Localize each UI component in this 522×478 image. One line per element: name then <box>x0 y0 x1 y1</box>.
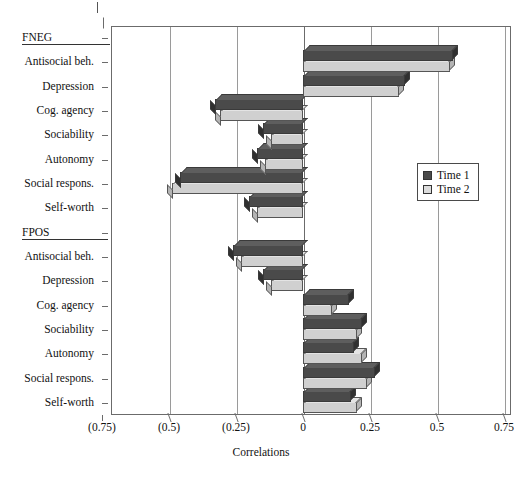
legend-label-time-2: Time 2 <box>437 183 470 195</box>
bar-top-face <box>234 240 308 246</box>
legend-swatch-time-2 <box>423 185 432 194</box>
bar-fpos-antisocial-beh-time-2 <box>241 256 303 267</box>
y-tick-7 <box>102 208 108 209</box>
y-label-antisocial-beh: Antisocial beh. <box>24 55 94 67</box>
y-tick-8 <box>102 233 108 234</box>
bar-fneg-autonomy-time-1 <box>257 148 303 159</box>
y-tick-3 <box>102 111 108 112</box>
bar-fneg-cog-agency-time-2 <box>220 110 303 121</box>
y-tick-10 <box>102 281 108 282</box>
y-label-self-worth: Self-worth <box>45 201 94 213</box>
bar-fpos-autonomy-time-1 <box>303 342 354 353</box>
bar-fneg-depression-time-2 <box>303 86 399 97</box>
y-label-self-worth: Self-worth <box>45 396 94 408</box>
y-tick-2 <box>102 87 108 88</box>
correlations-bar-chart: FNEGAntisocial beh.DepressionCog. agency… <box>0 0 522 478</box>
bar-fpos-sociability-time-1 <box>303 318 362 329</box>
bar-fpos-depression-time-2 <box>271 280 303 291</box>
bar-top-face <box>216 94 308 100</box>
bar-fneg-depression-time-1 <box>303 75 405 86</box>
legend-swatch-time-1 <box>423 171 432 180</box>
bar-top-face <box>304 289 354 295</box>
bar-fpos-autonomy-time-2 <box>303 353 362 364</box>
gridline-1 <box>170 27 171 414</box>
y-axis-labels: FNEGAntisocial beh.DepressionCog. agency… <box>0 26 108 415</box>
bar-fneg-sociability-time-2 <box>271 134 303 145</box>
y-tick-1 <box>102 62 108 63</box>
bar-fpos-cog-agency-time-1 <box>303 294 349 305</box>
y-tick-5 <box>102 160 108 161</box>
bar-fpos-social-respons-time-2 <box>303 378 367 389</box>
x-tick-label-4: 0.25 <box>340 421 400 433</box>
y-label-social-respons: Social respons. <box>24 372 94 384</box>
x-tick-label-5: 0.5 <box>407 421 467 433</box>
page-crop-mark <box>97 2 98 13</box>
gridline-6 <box>505 27 506 414</box>
bar-fpos-social-respons-time-1 <box>303 367 375 378</box>
gridline-2 <box>237 27 238 414</box>
bar-fneg-sociability-time-1 <box>263 123 303 134</box>
y-label-cog-agency: Cog. agency <box>37 104 94 116</box>
x-tick-label-0: (0.75) <box>72 421 132 433</box>
y-label-antisocial-beh: Antisocial beh. <box>24 250 94 262</box>
x-tick-label-1: (0.5) <box>139 421 199 433</box>
y-tick-11 <box>102 306 108 307</box>
x-tick-label-6: 0.75 <box>474 421 522 433</box>
y-tick-12 <box>102 330 108 331</box>
bar-fpos-depression-time-1 <box>263 269 303 280</box>
bar-fneg-cog-agency-time-1 <box>215 99 303 110</box>
y-label-cog-agency: Cog. agency <box>37 299 94 311</box>
legend-item-time-2: Time 2 <box>423 182 470 196</box>
legend-item-time-1: Time 1 <box>423 168 470 182</box>
y-tick-9 <box>102 257 108 258</box>
bar-fneg-self-worth-time-1 <box>249 196 303 207</box>
y-label-autonomy: Autonomy <box>45 153 94 165</box>
y-label-fneg: FNEG <box>22 31 110 45</box>
y-label-fpos: FPOS <box>22 226 108 240</box>
x-tick-label-2: (0.25) <box>206 421 266 433</box>
bar-fneg-antisocial-beh-time-1 <box>303 50 453 61</box>
bar-fneg-social-respons-time-2 <box>172 183 303 194</box>
y-label-autonomy: Autonomy <box>45 347 94 359</box>
legend: Time 1 Time 2 <box>417 163 479 201</box>
y-tick-14 <box>102 379 108 380</box>
legend-label-time-1: Time 1 <box>437 169 470 181</box>
y-tick-6 <box>102 184 108 185</box>
x-axis-title: Correlations <box>0 446 522 458</box>
y-tick-4 <box>102 135 108 136</box>
bar-fneg-social-respons-time-1 <box>180 172 303 183</box>
bar-top-face <box>304 45 458 51</box>
bar-fneg-self-worth-time-2 <box>257 207 303 218</box>
y-label-sociability: Sociability <box>44 323 94 335</box>
y-label-social-respons: Social respons. <box>24 177 94 189</box>
x-tick-label-3: 0 <box>273 421 333 433</box>
bar-fpos-sociability-time-2 <box>303 329 357 340</box>
bar-fpos-antisocial-beh-time-1 <box>233 245 303 256</box>
gridline-5 <box>438 27 439 414</box>
y-tick-0 <box>102 38 108 39</box>
bar-fneg-antisocial-beh-time-2 <box>303 61 450 72</box>
bar-fpos-cog-agency-time-2 <box>303 305 332 316</box>
plot-3d-depth-edge <box>103 18 111 26</box>
y-tick-15 <box>102 403 108 404</box>
bar-fpos-self-worth-time-1 <box>303 391 351 402</box>
y-label-depression: Depression <box>42 274 94 286</box>
y-label-depression: Depression <box>42 80 94 92</box>
y-tick-13 <box>102 354 108 355</box>
bar-fpos-self-worth-time-2 <box>303 402 357 413</box>
bar-fneg-autonomy-time-2 <box>265 159 303 170</box>
y-label-sociability: Sociability <box>44 128 94 140</box>
